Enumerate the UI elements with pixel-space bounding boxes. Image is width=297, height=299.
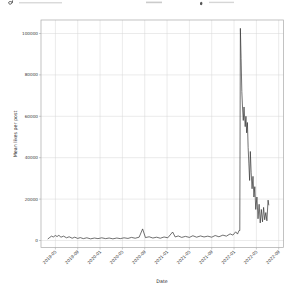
faded-text-strip (19, 2, 62, 3)
y-tick-label: 0 (35, 238, 38, 243)
x-axis-label: Date (156, 279, 168, 284)
x-tick-label: 2021-05 (176, 249, 192, 265)
x-tick-label: 2020-05 (109, 249, 125, 265)
figure: 2019-052019-092020-012020-052020-092021-… (0, 0, 297, 299)
x-tick-label: 2022-05 (243, 249, 259, 265)
y-tick-label: 60000 (25, 114, 39, 119)
data-line (48, 28, 269, 239)
y-tick-label: 80000 (25, 72, 39, 77)
x-tick-label: 2019-05 (42, 249, 58, 265)
faded-text-strip (209, 2, 234, 3)
letter-descender-mark (9, 0, 13, 4)
x-tick-label: 2019-09 (64, 249, 80, 265)
x-tick-label: 2020-09 (131, 249, 147, 265)
x-tick-label: 2021-09 (198, 249, 214, 265)
y-axis-label: Mean likes per post (13, 111, 18, 158)
y-tick-labels: 020000400006000080000100000 (22, 31, 38, 243)
x-tick-labels: 2019-052019-092020-012020-052020-092021-… (42, 249, 281, 265)
plot-border (41, 20, 284, 248)
series-mean-likes-per-post (48, 28, 269, 239)
chart-canvas: 2019-052019-092020-012020-052020-092021-… (0, 0, 297, 299)
x-tick-label: 2020-01 (86, 249, 102, 265)
letter-descender-mark (200, 2, 203, 5)
gridlines (41, 20, 284, 248)
y-tick-label: 100000 (22, 31, 38, 36)
faded-text-strip (146, 2, 162, 4)
y-tick-label: 40000 (25, 155, 39, 160)
tick-marks (39, 34, 279, 250)
cropped-title-remnant (9, 0, 234, 5)
x-tick-label: 2021-01 (153, 249, 169, 265)
y-tick-label: 20000 (25, 197, 39, 202)
x-tick-label: 2022-09 (265, 249, 281, 265)
x-tick-label: 2022-01 (220, 249, 236, 265)
